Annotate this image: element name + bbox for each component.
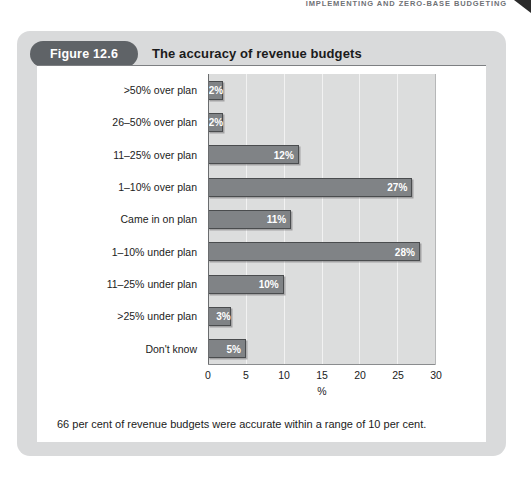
bar-series: 2% 2% 12% 27% — [208, 74, 435, 365]
category-label: 11–25% under plan — [37, 268, 205, 300]
figure-number-badge: Figure 12.6 — [30, 41, 138, 67]
category-label: 11–25% over plan — [37, 139, 205, 171]
bar-row: 2% — [208, 106, 435, 138]
bar[interactable]: 3% — [208, 307, 231, 326]
x-axis-line — [208, 364, 435, 365]
bar[interactable]: 28% — [208, 242, 420, 261]
x-tick-label: 10 — [278, 369, 290, 381]
bar-row: 27% — [208, 171, 435, 203]
bar-value-label: 27% — [387, 182, 407, 193]
bar-row: 2% — [208, 74, 435, 106]
bar-value-label: 3% — [216, 311, 230, 322]
page-corner-marker — [514, 0, 531, 13]
bar-value-label: 12% — [274, 149, 294, 160]
x-tick-label: 30 — [430, 369, 442, 381]
category-axis-labels: >50% over plan 26–50% over plan 11–25% o… — [37, 74, 205, 365]
bar-row: 3% — [208, 300, 435, 332]
x-tick-label: 0 — [205, 369, 211, 381]
figure-card: Figure 12.6 The accuracy of revenue budg… — [17, 31, 506, 456]
bar[interactable]: 10% — [208, 275, 284, 294]
figure-body: >50% over plan 26–50% over plan 11–25% o… — [37, 65, 486, 442]
category-label: >50% over plan — [37, 74, 205, 106]
y-axis-line — [208, 74, 209, 365]
bar-chart: >50% over plan 26–50% over plan 11–25% o… — [37, 74, 486, 404]
bar-row: 5% — [208, 333, 435, 365]
plot-area: 2% 2% 12% 27% — [208, 74, 436, 365]
bar-row: 10% — [208, 268, 435, 300]
bar-row: 12% — [208, 139, 435, 171]
bar-value-label: 2% — [209, 117, 223, 128]
bar-value-label: 2% — [209, 85, 223, 96]
bar[interactable]: 2% — [208, 113, 223, 132]
x-axis-title: % — [208, 385, 436, 397]
category-label: >25% under plan — [37, 300, 205, 332]
bar[interactable]: 12% — [208, 145, 299, 164]
bar[interactable]: 5% — [208, 339, 246, 358]
bar-row: 11% — [208, 203, 435, 235]
figure-header: Figure 12.6 The accuracy of revenue budg… — [30, 41, 493, 67]
figure-title: The accuracy of revenue budgets — [152, 41, 362, 67]
category-label: Don't know — [37, 333, 205, 365]
bar-row: 28% — [208, 236, 435, 268]
bar[interactable]: 11% — [208, 210, 291, 229]
bar-value-label: 5% — [226, 343, 240, 354]
x-tick-label: 20 — [354, 369, 366, 381]
bar-value-label: 10% — [259, 279, 279, 290]
running-head: IMPLEMENTING AND ZERO-BASE BUDGETING — [306, 0, 507, 8]
category-label: 1–10% over plan — [37, 171, 205, 203]
x-axis: 0 5 10 15 20 25 30 % — [208, 365, 436, 403]
category-label: Came in on plan — [37, 203, 205, 235]
x-tick-label: 15 — [316, 369, 328, 381]
category-label: 26–50% over plan — [37, 106, 205, 138]
bar-value-label: 28% — [395, 246, 415, 257]
figure-caption: 66 per cent of revenue budgets were accu… — [57, 417, 477, 431]
x-tick-label: 5 — [243, 369, 249, 381]
bar[interactable]: 2% — [208, 81, 223, 100]
x-tick-label: 25 — [392, 369, 404, 381]
category-label: 1–10% under plan — [37, 236, 205, 268]
bar[interactable]: 27% — [208, 178, 412, 197]
bar-value-label: 11% — [267, 214, 286, 225]
